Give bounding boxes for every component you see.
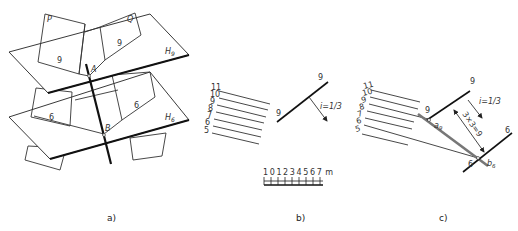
point-b6 xyxy=(477,157,480,160)
label-p: P xyxy=(47,15,52,24)
plane-h9 xyxy=(9,14,189,93)
label-b: B xyxy=(105,124,111,133)
panel-c: 11 10 9 8 7 6 5 i=1/3 3×3=9 9 9 6 6 a9 b… xyxy=(354,77,512,223)
label-p-contour-6: 6 xyxy=(49,113,54,122)
line9-left-label: 9 xyxy=(425,106,430,115)
diagram-canvas: P Q H9 H6 A B 9 9 6 6 a) 11 10 9 8 7 6 5… xyxy=(0,0,518,231)
line6-left-label: 6 xyxy=(468,160,473,169)
label-a: A xyxy=(90,65,96,74)
panel-a: P Q H9 H6 A B 9 9 6 6 a) xyxy=(9,13,189,223)
line9-top-label: 9 xyxy=(470,77,475,86)
caption-b: b) xyxy=(296,213,305,223)
line6-right-label: 6 xyxy=(505,126,510,135)
slope-label-end: 9 xyxy=(318,73,323,82)
gradient-label-b: i=1/3 xyxy=(320,102,342,111)
slope-label-start: 9 xyxy=(276,109,281,118)
contour-lines-c xyxy=(362,90,478,158)
scale-bar-ticks: 101234567m xyxy=(263,168,335,177)
contour-lines-b xyxy=(212,91,270,144)
scale-bar: 101234567m xyxy=(263,168,335,185)
gradient-label-c: i=1/3 xyxy=(479,97,501,106)
panel-b: 11 10 9 8 7 6 5 9 9 i=1/3 101234567m xyxy=(204,73,342,223)
label-p-contour-9: 9 xyxy=(57,56,62,65)
c-contour-label-5: 5 xyxy=(354,124,361,134)
caption-c: c) xyxy=(439,213,447,223)
label-q-contour-6: 6 xyxy=(134,101,139,110)
label-q-contour-9: 9 xyxy=(117,39,122,48)
label-q: Q xyxy=(127,15,133,24)
contour-label-5: 5 xyxy=(204,126,209,135)
label-a9: a9 xyxy=(434,121,443,131)
point-b xyxy=(103,134,106,137)
point-a xyxy=(88,75,91,78)
plane-q-lower xyxy=(130,133,166,160)
caption-a: a) xyxy=(107,213,116,223)
point-a9 xyxy=(428,119,431,122)
label-b6: b6 xyxy=(487,159,496,169)
